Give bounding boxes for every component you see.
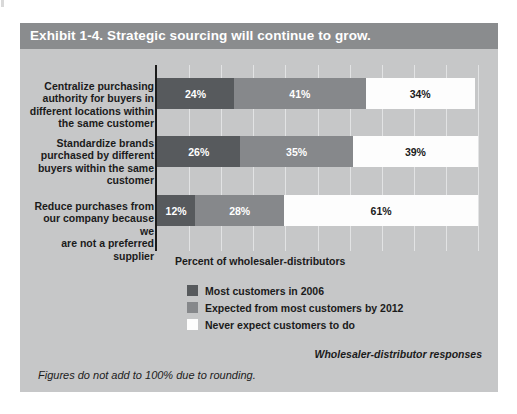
category-label-line: different locations within — [28, 105, 154, 117]
chart-bar-row: 24% 41% 34% — [157, 78, 478, 109]
bar-segment-expected-by-2012: 41% — [234, 78, 366, 109]
bar-segment-most-customers-2006: 12% — [157, 195, 195, 226]
bar-segment-never-expect: 39% — [353, 136, 478, 167]
chart-plot-area: 24% 41% 34% 26% 35% 39% 12% 28% 61% — [155, 65, 478, 251]
exhibit-screenshot: Exhibit 1-4. Strategic sourcing will con… — [0, 0, 517, 414]
source-note: Wholesaler-distributor responses — [315, 348, 482, 360]
category-label-line: are not a preferred supplier — [28, 237, 154, 262]
category-label-reduce-purchases: Reduce purchases from our company becaus… — [28, 200, 154, 262]
legend-swatch-icon — [187, 285, 198, 296]
bar-segment-most-customers-2006: 26% — [157, 136, 240, 167]
category-label-line: Standardize brands — [28, 137, 154, 149]
legend-label: Most customers in 2006 — [205, 285, 324, 297]
bar-segment-never-expect: 34% — [366, 78, 475, 109]
chart-bar-row: 12% 28% 61% — [157, 195, 478, 226]
category-label-line: buyers within the same — [28, 162, 154, 174]
chart-legend: Most customers in 2006 Expected from mos… — [187, 283, 403, 334]
bar-segment-expected-by-2012: 35% — [240, 136, 352, 167]
axis-caption: Percent of wholesaler-distributors — [175, 255, 345, 267]
bar-segment-expected-by-2012: 28% — [195, 195, 284, 226]
category-label-line: authority for buyers in — [28, 92, 154, 104]
gridline — [478, 65, 479, 251]
legend-label: Never expect customers to do — [205, 319, 355, 331]
legend-item-expected-by-2012: Expected from most customers by 2012 — [187, 300, 403, 315]
category-label-line: Centralize purchasing — [28, 80, 154, 92]
category-label-standardize-brands: Standardize brands purchased by differen… — [28, 137, 154, 187]
exhibit-panel: Exhibit 1-4. Strategic sourcing will con… — [20, 23, 498, 392]
chart-bar-row: 26% 35% 39% — [157, 136, 478, 167]
category-label-line: the same customer — [28, 117, 154, 129]
exhibit-title-bar: Exhibit 1-4. Strategic sourcing will con… — [20, 23, 498, 49]
legend-swatch-icon — [187, 302, 198, 313]
legend-swatch-icon — [187, 319, 198, 330]
legend-label: Expected from most customers by 2012 — [205, 302, 403, 314]
category-label-line: our company because we — [28, 212, 154, 237]
scan-artifact — [1, 0, 4, 7]
footnote: Figures do not add to 100% due to roundi… — [38, 369, 256, 381]
category-label-line: customer — [28, 174, 154, 186]
legend-item-most-customers-2006: Most customers in 2006 — [187, 283, 403, 298]
category-label-centralize-purchasing: Centralize purchasing authority for buye… — [28, 80, 154, 130]
exhibit-title: Exhibit 1-4. Strategic sourcing will con… — [30, 28, 371, 43]
legend-item-never-expect: Never expect customers to do — [187, 317, 403, 332]
bar-segment-most-customers-2006: 24% — [157, 78, 234, 109]
bar-segment-never-expect: 61% — [284, 195, 478, 226]
category-label-line: Reduce purchases from — [28, 200, 154, 212]
category-label-line: purchased by different — [28, 149, 154, 161]
